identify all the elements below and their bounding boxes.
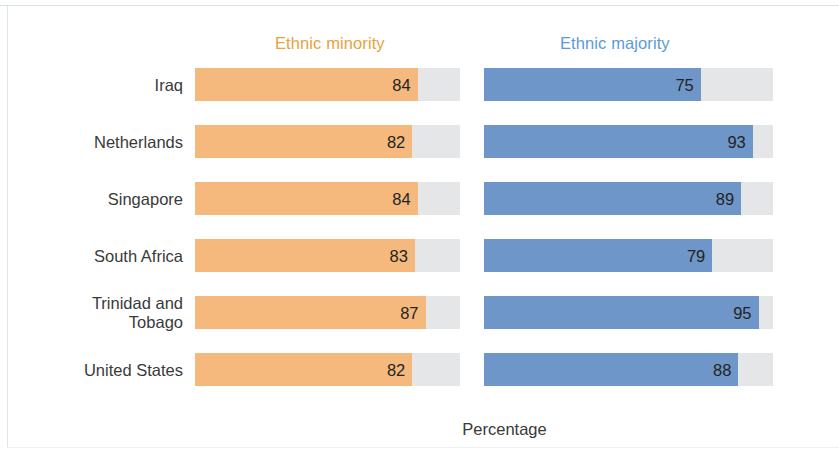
minority-bar-fill: 87 [195,296,426,329]
majority-bar-track: 93 [484,125,773,158]
chart-plot-area: Iraq8475Netherlands8293Singapore8489Sout… [0,0,839,455]
majority-bar-track: 88 [484,353,773,386]
minority-bar-track: 87 [195,296,460,329]
majority-bar-fill: 93 [484,125,753,158]
table-row: Netherlands8293 [0,125,839,158]
majority-bar-track: 75 [484,68,773,101]
category-label: Trinidad and Tobago [0,294,183,332]
majority-bar-value-label: 93 [727,132,745,151]
minority-bar-track: 83 [195,239,460,272]
minority-bar-value-label: 87 [400,303,418,322]
category-label: United States [0,360,183,379]
minority-bar-fill: 84 [195,182,418,215]
minority-bar-track: 82 [195,125,460,158]
minority-bar-fill: 82 [195,353,412,386]
table-row: South Africa8379 [0,239,839,272]
minority-bar-value-label: 84 [392,189,410,208]
minority-bar-track: 82 [195,353,460,386]
minority-bar-fill: 83 [195,239,415,272]
majority-bar-fill: 89 [484,182,741,215]
minority-bar-value-label: 84 [392,75,410,94]
minority-bar-fill: 82 [195,125,412,158]
majority-bar-fill: 95 [484,296,759,329]
category-label: Singapore [0,189,183,208]
majority-bar-track: 95 [484,296,773,329]
x-axis-title-text: Percentage [462,420,546,438]
chart-figure: Ethnic minority Ethnic majority Iraq8475… [0,0,839,455]
table-row: Trinidad and Tobago8795 [0,296,839,329]
category-label: South Africa [0,246,183,265]
table-row: United States8288 [0,353,839,386]
minority-bar-track: 84 [195,68,460,101]
x-axis-title: Percentage [0,420,839,439]
majority-bar-value-label: 95 [733,303,751,322]
table-row: Iraq8475 [0,68,839,101]
table-row: Singapore8489 [0,182,839,215]
majority-bar-value-label: 88 [713,360,731,379]
minority-bar-fill: 84 [195,68,418,101]
majority-bar-fill: 79 [484,239,712,272]
minority-bar-value-label: 82 [387,360,405,379]
majority-bar-track: 89 [484,182,773,215]
category-label: Iraq [0,75,183,94]
minority-bar-track: 84 [195,182,460,215]
majority-bar-track: 79 [484,239,773,272]
majority-bar-value-label: 75 [675,75,693,94]
majority-bar-value-label: 89 [716,189,734,208]
majority-bar-fill: 88 [484,353,738,386]
category-label: Netherlands [0,132,183,151]
minority-bar-value-label: 82 [387,132,405,151]
majority-bar-value-label: 79 [687,246,705,265]
minority-bar-value-label: 83 [390,246,408,265]
majority-bar-fill: 75 [484,68,701,101]
